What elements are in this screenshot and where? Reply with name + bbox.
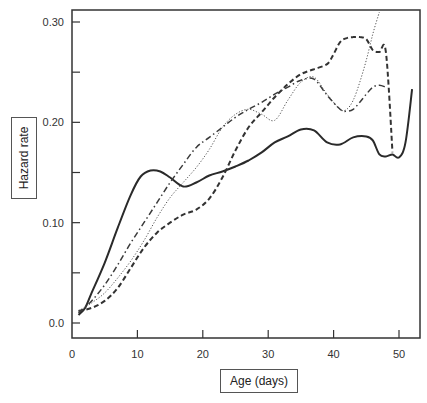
y-tick-label: 0.10	[43, 217, 64, 229]
x-tick-label: 0	[69, 348, 75, 360]
x-axis-label: Age (days)	[230, 374, 288, 388]
series-line-solid	[79, 89, 413, 315]
y-tick-label: 0.0	[49, 317, 64, 329]
y-tick-label: 0.30	[43, 16, 64, 28]
plot-area	[79, 12, 413, 315]
plot-frame	[72, 10, 420, 338]
x-axis-label-box: Age (days)	[220, 369, 298, 393]
series-line-dashed	[79, 37, 393, 311]
x-tick-label: 10	[131, 348, 143, 360]
y-axis-label-box: Hazard rate	[11, 117, 37, 199]
y-axis-label: Hazard rate	[17, 127, 31, 190]
x-tick-label: 30	[262, 348, 274, 360]
hazard-rate-chart: 0.00.100.200.3001020304050	[0, 0, 427, 403]
y-tick-label: 0.20	[43, 116, 64, 128]
x-tick-label: 40	[327, 348, 339, 360]
series-line-dotted	[79, 12, 380, 311]
x-tick-label: 20	[197, 348, 209, 360]
axes: 0.00.100.200.3001020304050	[43, 10, 420, 360]
x-tick-label: 50	[393, 348, 405, 360]
